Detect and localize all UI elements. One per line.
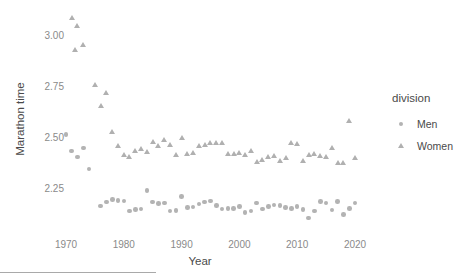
data-point-women xyxy=(121,152,127,157)
data-point-women xyxy=(72,47,78,52)
data-point-men xyxy=(127,209,132,214)
data-point-women xyxy=(271,153,277,158)
legend-item-label: Men xyxy=(410,118,437,130)
data-point-men xyxy=(104,200,109,205)
data-point-women xyxy=(161,137,167,142)
legend-title: division xyxy=(392,92,456,104)
data-point-men xyxy=(81,146,86,151)
data-point-women xyxy=(323,154,329,159)
data-point-women xyxy=(294,141,300,146)
data-point-women xyxy=(340,160,346,165)
footer-divider xyxy=(0,272,156,273)
data-point-women xyxy=(98,103,104,108)
y-tick-label: 3.00 xyxy=(20,30,64,41)
x-tick-label: 2010 xyxy=(274,239,320,250)
data-point-women xyxy=(225,151,231,156)
x-axis-title: Year xyxy=(0,255,400,267)
data-point-men xyxy=(226,206,231,211)
y-tick-label: 2.50 xyxy=(20,132,64,143)
data-point-men xyxy=(162,201,167,206)
data-point-women xyxy=(213,140,219,145)
data-point-women xyxy=(236,150,242,155)
data-point-women xyxy=(92,82,98,87)
data-point-men xyxy=(272,203,277,208)
data-point-men xyxy=(145,188,150,193)
legend-item-label: Women xyxy=(410,140,453,152)
data-point-women xyxy=(306,152,312,157)
data-point-men xyxy=(202,200,207,205)
data-point-men xyxy=(208,199,213,204)
data-point-women xyxy=(155,143,161,148)
data-point-women xyxy=(283,155,289,160)
data-point-men xyxy=(341,212,346,217)
data-point-women xyxy=(259,157,265,162)
data-point-men xyxy=(179,194,184,199)
data-point-women xyxy=(219,140,225,145)
data-point-women xyxy=(196,143,202,148)
data-point-women xyxy=(352,155,358,160)
data-point-men xyxy=(156,201,161,206)
y-tick-label: 2.75 xyxy=(20,81,64,92)
data-point-men xyxy=(306,216,311,221)
data-point-men xyxy=(249,209,254,214)
triangle-marker-icon xyxy=(392,137,410,155)
data-point-men xyxy=(347,206,352,211)
data-point-women xyxy=(190,150,196,155)
data-point-women xyxy=(184,151,190,156)
y-tick-label: 2.25 xyxy=(20,183,64,194)
data-point-women xyxy=(126,154,132,159)
data-point-women xyxy=(74,23,80,28)
x-tick-label: 2000 xyxy=(216,239,262,250)
data-point-men xyxy=(324,201,329,206)
data-point-men xyxy=(289,206,294,211)
data-point-men xyxy=(133,207,138,212)
data-point-men xyxy=(278,203,283,208)
data-point-women xyxy=(150,139,156,144)
data-point-men xyxy=(220,207,225,212)
legend-item-men[interactable]: Men xyxy=(392,115,456,133)
data-point-men xyxy=(335,199,340,204)
data-point-women xyxy=(144,149,150,154)
data-point-women xyxy=(80,42,86,47)
data-point-men xyxy=(150,200,155,205)
data-point-women xyxy=(277,158,283,163)
data-point-women xyxy=(69,15,75,20)
data-point-women xyxy=(103,90,109,95)
data-point-women xyxy=(317,153,323,158)
data-point-women xyxy=(173,152,179,157)
data-point-women xyxy=(242,152,248,157)
data-point-men xyxy=(254,201,259,206)
data-point-men xyxy=(312,209,317,214)
data-point-women xyxy=(138,146,144,151)
data-point-women xyxy=(179,135,185,140)
data-point-men xyxy=(75,155,80,160)
data-point-women xyxy=(265,154,271,159)
data-point-men xyxy=(197,202,202,207)
data-point-men xyxy=(116,198,121,203)
data-point-women xyxy=(288,140,294,145)
data-point-women xyxy=(132,148,138,153)
data-point-women xyxy=(167,142,173,147)
data-point-men xyxy=(87,167,92,172)
legend: division Men Women xyxy=(392,92,456,159)
x-tick-label: 1990 xyxy=(159,239,205,250)
legend-item-women[interactable]: Women xyxy=(392,137,456,155)
data-point-men xyxy=(174,208,179,213)
data-point-women xyxy=(115,143,121,148)
data-point-men xyxy=(330,208,335,213)
data-point-men xyxy=(185,205,190,210)
data-point-men xyxy=(237,204,242,209)
data-point-women xyxy=(202,142,208,147)
plot-panel xyxy=(0,0,456,277)
data-point-women xyxy=(248,148,254,153)
data-point-women xyxy=(311,151,317,156)
x-tick-label: 2020 xyxy=(332,239,378,250)
data-point-men xyxy=(243,210,248,215)
data-point-men xyxy=(69,149,74,154)
data-point-women xyxy=(231,151,237,156)
data-point-men xyxy=(301,207,306,212)
data-point-men xyxy=(98,204,103,209)
data-point-men xyxy=(214,203,219,208)
data-point-women xyxy=(300,158,306,163)
data-point-men xyxy=(64,132,69,137)
